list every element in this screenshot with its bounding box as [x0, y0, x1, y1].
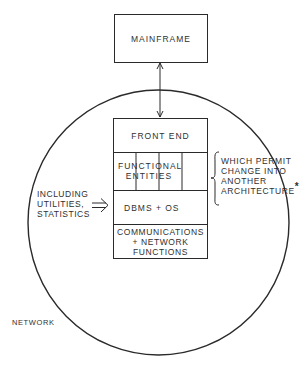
mainframe-box: MAINFRAME [114, 14, 208, 63]
communications-label-line1: COMMUNICATIONS [117, 227, 204, 237]
functional-entities-box: FUNCTIONAL ENTITIES [113, 152, 208, 191]
functional-entities-label-line2: ENTITIES [118, 171, 180, 181]
mainframe-label: MAINFRAME [131, 34, 191, 44]
curly-brace-icon [211, 152, 219, 205]
communications-box: COMMUNICATIONS + NETWORK FUNCTIONS [113, 224, 208, 259]
communications-label-line2: + NETWORK [117, 237, 204, 247]
network-label: NETWORK [12, 318, 55, 328]
dbms-os-box: DBMS + OS [113, 190, 208, 225]
architecture-note-line4: ARCHITECTURE* [221, 186, 299, 196]
architecture-diagram: MAINFRAME FRONT END FUNCTIONAL ENTITIES … [0, 0, 307, 368]
utilities-note-line1: INCLUDING [37, 189, 90, 199]
architecture-note-line4-text: ARCHITECTURE [221, 186, 295, 196]
front-end-box: FRONT END [113, 118, 208, 153]
double-arrow-icon [92, 199, 108, 213]
front-end-label: FRONT END [131, 131, 189, 141]
dbms-os-label: DBMS + OS [124, 203, 180, 213]
asterisk-marker: * [295, 181, 300, 192]
architecture-note-line2: CHANGE INTO [221, 166, 299, 176]
utilities-note-line3: STATISTICS [37, 209, 90, 219]
functional-entities-label-line1: FUNCTIONAL [118, 161, 180, 171]
architecture-note-line3: ANOTHER [221, 176, 299, 186]
utilities-note-line2: UTILITIES, [37, 199, 90, 209]
communications-label-line3: FUNCTIONS [117, 247, 204, 257]
utilities-note: INCLUDING UTILITIES, STATISTICS [37, 189, 90, 219]
architecture-note: WHICH PERMIT CHANGE INTO ANOTHER ARCHITE… [221, 156, 299, 196]
architecture-note-line1: WHICH PERMIT [221, 156, 299, 166]
